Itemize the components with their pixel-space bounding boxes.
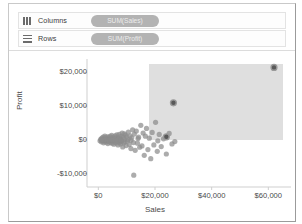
scatter-mark[interactable]: [164, 151, 169, 156]
scatter-mark-selected[interactable]: [163, 134, 169, 140]
shelf-area: Columns SUM(Sales) Rows SUM(Profit): [9, 4, 295, 47]
scatter-mark[interactable]: [151, 142, 156, 147]
scatter-mark[interactable]: [99, 137, 104, 142]
scatter-mark[interactable]: [144, 126, 149, 131]
rows-bars-icon: [23, 33, 34, 44]
scatter-mark[interactable]: [135, 136, 140, 141]
rows-pill-sum-profit[interactable]: SUM(Profit): [91, 33, 159, 45]
scatter-mark[interactable]: [148, 156, 153, 161]
scatter-mark[interactable]: [153, 120, 158, 125]
columns-bars-icon: [23, 15, 34, 26]
columns-shelf[interactable]: Columns SUM(Sales): [18, 12, 286, 29]
x-tick-label: $0: [94, 191, 102, 200]
scatter-mark[interactable]: [138, 123, 143, 128]
scatter-mark[interactable]: [145, 147, 150, 152]
scatter-mark-selected[interactable]: [171, 100, 177, 106]
tableau-worksheet: Columns SUM(Sales) Rows SUM(Profit) Prof…: [0, 0, 302, 224]
x-tick-label: $20,000: [141, 191, 168, 200]
scatter-mark[interactable]: [131, 173, 136, 178]
scatter-mark[interactable]: [133, 148, 138, 153]
scatter-mark[interactable]: [134, 128, 139, 133]
scatter-mark[interactable]: [142, 153, 147, 158]
columns-pill-sum-sales[interactable]: SUM(Sales): [91, 15, 159, 27]
scatter-mark[interactable]: [155, 138, 160, 143]
scatter-mark[interactable]: [157, 132, 162, 137]
y-tick-label: $10,000: [27, 101, 87, 110]
y-axis-tick-labels: $20,000$10,000$0-$10,000: [17, 55, 87, 195]
scatter-plot[interactable]: Profit $20,000$10,000$0-$10,000 Sales $0…: [17, 55, 293, 219]
rows-shelf[interactable]: Rows SUM(Profit): [18, 30, 286, 47]
scatter-mark[interactable]: [155, 149, 160, 154]
scatter-mark[interactable]: [172, 139, 177, 144]
scatter-mark[interactable]: [150, 130, 155, 135]
visualization-panel[interactable]: Profit $20,000$10,000$0-$10,000 Sales $0…: [9, 50, 295, 221]
scatter-mark-selected[interactable]: [271, 65, 277, 71]
columns-shelf-label: Columns: [38, 16, 67, 25]
x-axis-title: Sales: [17, 205, 293, 214]
scatter-mark[interactable]: [128, 138, 133, 143]
rows-shelf-label: Rows: [38, 34, 56, 43]
scatter-mark[interactable]: [159, 144, 164, 149]
x-tick-label: $60,000: [255, 191, 282, 200]
scatter-mark[interactable]: [139, 143, 144, 148]
scatter-mark[interactable]: [147, 136, 152, 141]
x-tick-label: $40,000: [198, 191, 225, 200]
selection-rectangle[interactable]: [149, 64, 283, 140]
y-tick-label: $0: [27, 135, 87, 144]
y-tick-label: -$10,000: [27, 169, 87, 178]
y-tick-label: $20,000: [27, 67, 87, 76]
